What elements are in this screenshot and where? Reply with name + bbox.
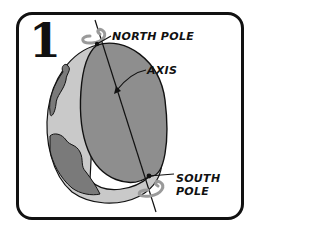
south-pole-label: SOUTH POLE <box>176 172 220 198</box>
north-pole-label: NORTH POLE <box>112 30 194 43</box>
south-pole-dot <box>147 174 152 179</box>
north-pole-dot <box>95 42 99 46</box>
axis-label: AXIS <box>147 64 177 77</box>
south-pole-label-line2: POLE <box>176 185 220 198</box>
south-pole-label-line1: SOUTH <box>176 172 220 185</box>
